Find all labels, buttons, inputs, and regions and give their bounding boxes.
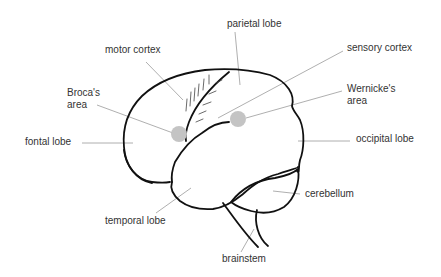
brainstem-left [223, 203, 258, 247]
label-cerebellum: cerebellum [305, 188, 354, 200]
leader-parietal-lobe [235, 32, 240, 85]
frontal-lobe-bottom [124, 150, 170, 183]
brocas-area-marker [171, 126, 187, 142]
label-occipital-lobe: occipital lobe [356, 133, 414, 145]
cerebellum-outline [231, 169, 298, 213]
label-brocas-area: Broca's area [67, 87, 100, 111]
leader-brocas-area [97, 105, 173, 133]
brainstem-right [256, 210, 268, 246]
label-wernickes-area-line2: area [347, 95, 395, 107]
label-frontal-lobe: fontal lobe [25, 136, 71, 148]
central-sulcus [186, 72, 229, 141]
label-brocas-area-line1: Broca's [67, 87, 100, 99]
label-brainstem: brainstem [222, 253, 266, 265]
label-brocas-area-line2: area [67, 99, 100, 111]
label-temporal-lobe: temporal lobe [105, 215, 166, 227]
label-wernickes-area: Wernicke's area [347, 83, 395, 107]
label-parietal-lobe: parietal lobe [227, 18, 281, 30]
label-motor-cortex: motor cortex [105, 44, 161, 56]
wernickes-area-marker [230, 111, 246, 127]
label-wernickes-area-line1: Wernicke's [347, 83, 395, 95]
label-sensory-cortex: sensory cortex [347, 42, 412, 54]
